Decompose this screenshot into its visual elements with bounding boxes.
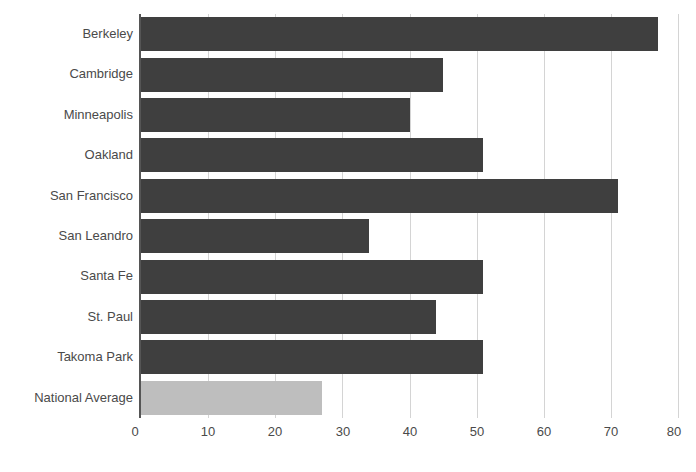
bar-row <box>141 54 678 94</box>
bar-row <box>141 337 678 377</box>
bar-san-leandro <box>141 219 369 253</box>
bar-row <box>141 256 678 296</box>
bar-row <box>141 378 678 418</box>
category-label-oakland: Oakland <box>0 135 133 175</box>
bar-st-paul <box>141 300 436 334</box>
category-label-national-average: National Average <box>0 378 133 418</box>
bars-container <box>141 14 678 418</box>
x-axis-tick-labels: 0 10 20 30 40 50 60 70 80 <box>0 424 696 450</box>
bar-row <box>141 135 678 175</box>
x-tick-30: 30 <box>336 424 350 439</box>
x-tick-50: 50 <box>470 424 484 439</box>
bar-santa-fe <box>141 260 483 294</box>
bar-row <box>141 297 678 337</box>
category-label-santa-fe: Santa Fe <box>0 256 133 296</box>
bar-row <box>141 14 678 54</box>
x-tick-80: 80 <box>667 424 681 439</box>
bar-row <box>141 95 678 135</box>
x-tick-40: 40 <box>403 424 417 439</box>
bar-national-average <box>141 381 322 415</box>
category-label-st-paul: St. Paul <box>0 297 133 337</box>
category-axis-labels: Berkeley Cambridge Minneapolis Oakland S… <box>0 14 133 418</box>
category-label-berkeley: Berkeley <box>0 14 133 54</box>
bar-berkeley <box>141 17 658 51</box>
bar-oakland <box>141 138 483 172</box>
category-label-takoma-park: Takoma Park <box>0 337 133 377</box>
y-axis-line <box>139 14 141 418</box>
bar-row <box>141 216 678 256</box>
x-tick-60: 60 <box>537 424 551 439</box>
bar-chart: Berkeley Cambridge Minneapolis Oakland S… <box>0 0 696 472</box>
bar-minneapolis <box>141 98 410 132</box>
category-label-san-leandro: San Leandro <box>0 216 133 256</box>
bar-cambridge <box>141 58 443 92</box>
bar-row <box>141 176 678 216</box>
plot-area <box>141 14 678 418</box>
x-tick-20: 20 <box>268 424 282 439</box>
bar-takoma-park <box>141 340 483 374</box>
category-label-san-francisco: San Francisco <box>0 176 133 216</box>
category-label-minneapolis: Minneapolis <box>0 95 133 135</box>
x-tick-70: 70 <box>604 424 618 439</box>
x-tick-0: 0 <box>131 424 138 439</box>
x-tick-10: 10 <box>201 424 215 439</box>
gridline-80 <box>678 14 679 418</box>
bar-san-francisco <box>141 179 618 213</box>
category-label-cambridge: Cambridge <box>0 54 133 94</box>
